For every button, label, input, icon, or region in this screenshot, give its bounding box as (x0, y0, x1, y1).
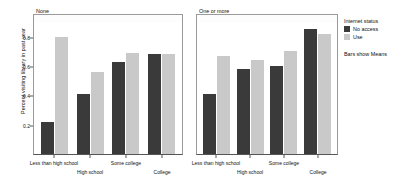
panel-none-header: None (33, 14, 183, 23)
panel-one-or-more-plot (196, 23, 338, 155)
x-tick-mark (126, 155, 127, 158)
chart-root: Percent visiting library in past year 0.… (0, 0, 414, 188)
bar[interactable] (148, 54, 161, 154)
legend: Internet status No access Use Bars show … (344, 18, 414, 57)
bar[interactable] (217, 56, 230, 154)
legend-title: Internet status (344, 18, 414, 24)
x-tick-label: Less than high school (30, 160, 78, 166)
x-tick-mark (162, 155, 163, 158)
bar[interactable] (270, 66, 283, 154)
x-tick-mark (216, 155, 217, 158)
bar[interactable] (284, 51, 297, 154)
x-tick-label: Some college (269, 160, 299, 166)
y-axis-ticks: 0.20.40.60.8 (14, 14, 32, 155)
bar[interactable] (55, 37, 68, 154)
panel-one-or-more-header: One or more (196, 14, 338, 23)
bar-group (270, 23, 297, 154)
x-tick-label: Some college (111, 160, 141, 166)
bar[interactable] (91, 72, 104, 154)
panel-none-title: None (36, 8, 49, 14)
x-tick-label: High school (77, 169, 103, 175)
x-axis-one-or-more: Less than high schoolHigh schoolSome col… (196, 155, 338, 188)
bar[interactable] (304, 29, 317, 154)
legend-note: Bars show Means (344, 51, 414, 57)
bar-group (304, 23, 331, 154)
bar-group (237, 23, 264, 154)
bar[interactable] (251, 60, 264, 154)
panel-none-plot (33, 23, 183, 155)
bar-group (77, 23, 104, 154)
legend-swatch-use-icon (344, 34, 350, 40)
panel-one-or-more: One or more (196, 14, 338, 155)
legend-label-use: Use (353, 34, 363, 40)
bar[interactable] (203, 94, 216, 154)
legend-swatch-no-access-icon (344, 26, 350, 32)
x-axis-none: Less than high schoolHigh schoolSome col… (33, 155, 183, 188)
x-tick-mark (284, 155, 285, 158)
bar-group (41, 23, 68, 154)
x-tick-mark (250, 155, 251, 158)
panel-one-or-more-title: One or more (199, 8, 229, 14)
y-tick-label: 0.4 (23, 93, 30, 99)
bar[interactable] (112, 62, 125, 154)
x-tick-mark (90, 155, 91, 158)
legend-label-no-access: No access (353, 26, 378, 32)
panel-none-bars (34, 23, 182, 154)
panel-none: None (33, 14, 183, 155)
x-tick-label: High school (237, 169, 263, 175)
bar[interactable] (237, 69, 250, 154)
bar-group (203, 23, 230, 154)
bar[interactable] (41, 122, 54, 154)
bar[interactable] (318, 34, 331, 154)
x-tick-mark (54, 155, 55, 158)
x-tick-label: College (310, 169, 327, 175)
panel-one-or-more-bars (197, 23, 337, 154)
bar-group (148, 23, 175, 154)
y-tick-label: 0.8 (23, 35, 30, 41)
bar[interactable] (162, 54, 175, 154)
x-tick-label: Less than high school (192, 160, 240, 166)
legend-item-use[interactable]: Use (344, 34, 414, 40)
legend-item-no-access[interactable]: No access (344, 26, 414, 32)
bar-group (112, 23, 139, 154)
x-tick-label: College (154, 169, 171, 175)
bar[interactable] (126, 53, 139, 154)
y-tick-label: 0.2 (23, 123, 30, 129)
x-tick-mark (318, 155, 319, 158)
bar[interactable] (77, 94, 90, 154)
y-tick-label: 0.6 (23, 64, 30, 70)
